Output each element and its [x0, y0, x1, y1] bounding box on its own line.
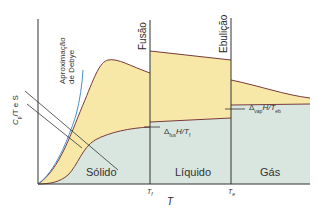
- cp-over-t-area-liquid: [150, 51, 231, 122]
- y-axis-label: Cp/T e S: [11, 95, 22, 125]
- tick-te: Te: [228, 188, 235, 197]
- delta-vap-annotation: ΔvapH/Teb: [249, 103, 281, 114]
- boiling-label: Ebulição: [218, 15, 229, 53]
- cp-over-t-area-gas: [231, 80, 310, 105]
- region-liquid: Líquido: [175, 166, 211, 178]
- tick-tf: Tf: [147, 188, 153, 197]
- chart-canvas: [0, 0, 332, 216]
- fusion-label: Fusão: [137, 22, 148, 50]
- chart-root: Cp/T e S Aproximação de Debye Fusão Ebul…: [0, 0, 332, 216]
- x-axis-label: T: [167, 196, 173, 207]
- debye-label: Aproximação de Debye: [58, 37, 76, 84]
- pointer-line-s: [27, 104, 82, 148]
- delta-fus-annotation: ΔfusH/Tf: [164, 127, 190, 138]
- region-gas: Gás: [260, 166, 280, 178]
- region-solid: Sólido: [86, 166, 117, 178]
